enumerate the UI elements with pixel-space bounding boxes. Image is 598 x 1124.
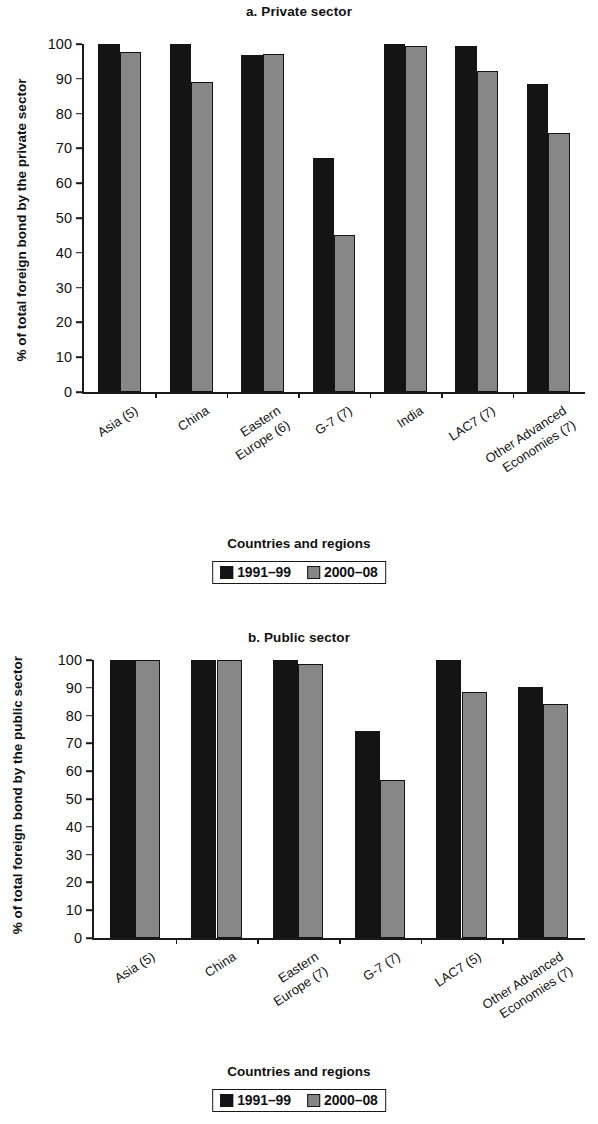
x-category-label: G-7 (7) [311, 402, 355, 439]
y-tick-mark [76, 43, 82, 45]
y-tick-mark [86, 798, 92, 800]
bar-series-1 [273, 660, 298, 938]
bar-series-1 [455, 46, 476, 392]
y-tick-label: 20 [56, 314, 72, 330]
x-category-label: China [202, 948, 240, 981]
y-tick-mark [76, 182, 82, 184]
y-tick-label: 50 [66, 791, 82, 807]
y-tick-mark [76, 356, 82, 358]
y-tick-label: 70 [66, 735, 82, 751]
chart-b-y-axis-title: % of total foreign bond by the public se… [10, 645, 25, 945]
y-tick-mark [86, 743, 92, 745]
x-category-label: LAC7 (7) [445, 402, 498, 445]
chart-a-legend: 1991–99 2000–08 [212, 561, 386, 584]
chart-b-x-axis-title: Countries and regions [0, 1064, 598, 1079]
y-tick-label: 10 [66, 902, 82, 918]
y-tick-label: 70 [56, 140, 72, 156]
chart-a-y-axis-line [82, 44, 84, 394]
y-tick-label: 100 [48, 36, 72, 52]
legend-swatch-1991-99-icon [220, 1094, 233, 1107]
y-tick-mark [86, 770, 92, 772]
bar-series-1 [436, 660, 461, 938]
x-tick-mark [502, 938, 504, 944]
chart-a-x-axis-line [82, 392, 585, 394]
legend-swatch-2000-08-icon [307, 1094, 320, 1107]
y-tick-mark [86, 659, 92, 661]
y-tick-label: 10 [56, 349, 72, 365]
x-tick-mark [441, 392, 443, 398]
y-tick-label: 60 [56, 175, 72, 191]
legend-label-series-2: 2000–08 [324, 564, 378, 580]
legend-item-series-2: 2000–08 [307, 1092, 378, 1108]
bar-series-2 [380, 780, 405, 938]
x-category-label: LAC7 (5) [432, 948, 485, 991]
y-tick-mark [76, 78, 82, 80]
x-tick-mark [339, 938, 341, 944]
x-tick-mark [155, 392, 157, 398]
y-tick-mark [86, 826, 92, 828]
x-tick-mark [227, 392, 229, 398]
x-category-label: Eastern Europe (7) [261, 948, 331, 1010]
y-tick-mark [76, 217, 82, 219]
y-tick-mark [76, 252, 82, 254]
y-tick-label: 90 [66, 680, 82, 696]
y-tick-label: 20 [66, 874, 82, 890]
x-tick-mark [421, 938, 423, 944]
bar-series-2 [298, 664, 323, 938]
y-tick-mark [86, 715, 92, 717]
x-tick-mark [298, 392, 300, 398]
bar-series-2 [548, 133, 569, 392]
chart-a-y-axis-title: % of total foreign bond by the private s… [14, 25, 29, 415]
bar-series-2 [263, 54, 284, 392]
bar-series-1 [170, 44, 191, 392]
bar-series-1 [241, 55, 262, 392]
y-tick-label: 40 [56, 245, 72, 261]
y-tick-label: 40 [66, 819, 82, 835]
y-tick-mark [76, 113, 82, 115]
y-tick-label: 60 [66, 763, 82, 779]
x-tick-mark [257, 938, 259, 944]
y-tick-label: 30 [56, 280, 72, 296]
bar-series-1 [191, 660, 216, 938]
y-tick-label: 80 [66, 708, 82, 724]
y-tick-label: 0 [74, 930, 82, 946]
bar-series-2 [334, 235, 355, 392]
bar-series-2 [135, 660, 160, 938]
chart-a-x-axis-title: Countries and regions [0, 536, 598, 551]
chart-panel-public-sector: b. Public sector % of total foreign bond… [0, 600, 598, 1124]
y-tick-mark [76, 322, 82, 324]
chart-b-plot-area: 0102030405060708090100Asia (5)ChinaEaste… [94, 660, 584, 938]
y-tick-label: 50 [56, 210, 72, 226]
y-tick-mark [86, 909, 92, 911]
y-tick-mark [86, 937, 92, 939]
x-tick-mark [513, 392, 515, 398]
legend-label-series-1: 1991–99 [237, 564, 291, 580]
y-tick-mark [86, 687, 92, 689]
chart-a-plot-area: 0102030405060708090100Asia (5)ChinaEaste… [84, 44, 584, 392]
chart-b-y-axis-line [92, 660, 94, 940]
bar-series-1 [527, 84, 548, 392]
y-tick-label: 0 [64, 384, 72, 400]
bar-series-1 [110, 660, 135, 938]
x-category-label: China [174, 402, 212, 435]
x-category-label: Asia (5) [111, 948, 158, 987]
bar-series-1 [518, 687, 543, 938]
x-category-label: Asia (5) [94, 402, 141, 441]
legend-item-series-2: 2000–08 [307, 564, 378, 580]
x-category-label: India [394, 402, 427, 432]
y-tick-mark [76, 148, 82, 150]
legend-swatch-2000-08-icon [307, 566, 320, 579]
legend-label-series-1: 1991–99 [237, 1092, 291, 1108]
legend-swatch-1991-99-icon [220, 566, 233, 579]
bar-series-2 [191, 82, 212, 392]
bar-series-1 [355, 731, 380, 938]
chart-b-legend: 1991–99 2000–08 [212, 1089, 386, 1112]
y-tick-label: 90 [56, 71, 72, 87]
x-category-label: Eastern Europe (6) [223, 402, 293, 464]
y-tick-mark [86, 882, 92, 884]
legend-item-series-1: 1991–99 [220, 1092, 291, 1108]
bar-series-2 [120, 52, 141, 392]
chart-panel-private-sector: a. Private sector % of total foreign bon… [0, 0, 598, 600]
x-tick-mark [370, 392, 372, 398]
legend-label-series-2: 2000–08 [324, 1092, 378, 1108]
